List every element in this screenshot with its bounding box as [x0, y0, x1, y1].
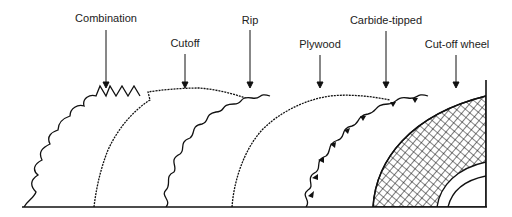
blade-drawing	[0, 0, 512, 217]
label-rip: Rip	[242, 14, 259, 26]
label-cutoff-wheel: Cut-off wheel	[425, 38, 490, 50]
label-carbide-tipped: Carbide-tipped	[350, 14, 422, 26]
label-plywood: Plywood	[299, 38, 341, 50]
label-combination: Combination	[75, 12, 137, 24]
label-cutoff: Cutoff	[170, 37, 199, 49]
arrows	[103, 30, 459, 88]
